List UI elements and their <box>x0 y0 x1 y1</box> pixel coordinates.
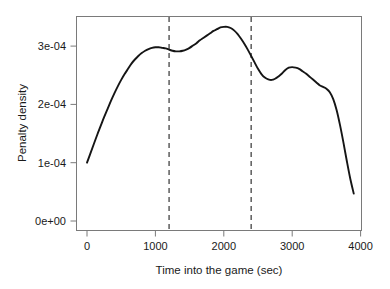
penalty-density-chart: 0e+001e-042e-043e-04 01000200030004000 T… <box>0 0 390 289</box>
y-tick-label: 1e-04 <box>38 157 66 169</box>
y-tick-label: 0e+00 <box>35 215 66 227</box>
x-tick-label: 3000 <box>280 240 304 252</box>
chart-canvas: 0e+001e-042e-043e-04 01000200030004000 T… <box>0 0 390 289</box>
y-axis-title: Penalty density <box>16 84 28 162</box>
x-axis-title: Time into the game (sec) <box>156 264 283 276</box>
x-tick-label: 1000 <box>143 240 167 252</box>
x-tick-label: 2000 <box>212 240 236 252</box>
y-tick-label: 2e-04 <box>38 98 66 110</box>
x-tick-label: 4000 <box>348 240 372 252</box>
y-tick-label: 3e-04 <box>38 40 66 52</box>
x-tick-label: 0 <box>84 240 90 252</box>
